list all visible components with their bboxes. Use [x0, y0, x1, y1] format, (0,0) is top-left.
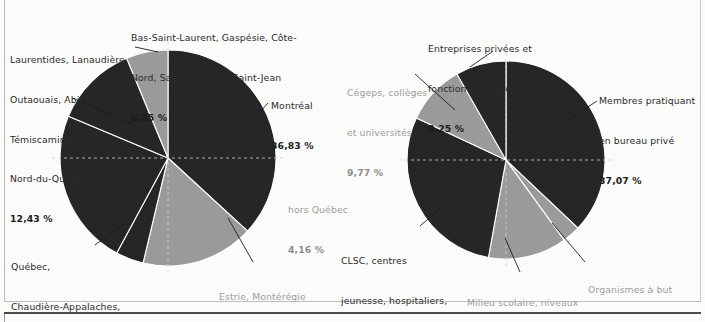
label-organismes: Organismes à but non lucratif 2,93 % — [588, 257, 672, 322]
label-membres-value: 37,07 % — [599, 174, 695, 187]
label-laurentides-value: 12,43 % — [10, 212, 128, 225]
label-clsc-line1: CLSC, centres — [341, 254, 460, 267]
label-milieu-scolaire: Milieu scolaire, niveaux primaire et sec… — [467, 270, 578, 322]
label-montreal-value: 36,83 % — [271, 139, 314, 152]
label-laurentides-line2: Outaouais, Abitibi- — [10, 93, 128, 106]
label-cegeps-line2: et universités — [347, 126, 427, 139]
label-membres-line1: Membres pratiquant — [599, 94, 695, 107]
label-clsc: CLSC, centres jeunesse, hospitaliers, de… — [341, 228, 460, 322]
label-quebec-line2: Chaudière-Appalaches, — [11, 300, 145, 313]
figure-panel: Laurentides, Lanaudière, Outaouais, Abit… — [0, 0, 705, 322]
label-bas-saint-laurent-line1: Bas-Saint-Laurent, Gaspésie, Côte- — [131, 31, 297, 44]
label-cegeps-value: 9,77 % — [347, 166, 427, 179]
label-cegeps: Cégeps, collèges et universités 9,77 % — [347, 60, 427, 205]
label-quebec: Québec, Chaudière-Appalaches, Mauricie, … — [11, 234, 145, 322]
label-entreprises-line2: fonction publique — [428, 82, 532, 95]
label-cegeps-line1: Cégeps, collèges — [347, 86, 427, 99]
label-clsc-line2: jeunesse, hospitaliers, — [341, 294, 460, 307]
label-laurentides-line4: Nord-du-Québec — [10, 172, 128, 185]
label-hors-quebec-value: 4,16 % — [288, 243, 348, 256]
label-laurentides: Laurentides, Lanaudière, Outaouais, Abit… — [10, 27, 128, 251]
label-milieu-scolaire-line1: Milieu scolaire, niveaux — [467, 296, 578, 309]
label-membres-line2: en bureau privé — [599, 134, 695, 147]
label-membres: Membres pratiquant en bureau privé 37,07… — [599, 68, 695, 213]
label-montreal: Montréal 36,83 % — [271, 73, 314, 179]
label-hors-quebec-line1: hors Québec — [288, 203, 348, 216]
label-laurentides-line3: Témiscamingue, — [10, 133, 128, 146]
label-organismes-line1: Organismes à but — [588, 283, 672, 296]
label-quebec-line1: Québec, — [11, 260, 145, 273]
label-estrie-line1: Estrie, Montérégie — [219, 290, 306, 303]
label-montreal-line1: Montréal — [271, 99, 314, 112]
label-entreprises-line1: Entreprises privées et — [428, 42, 532, 55]
label-laurentides-line1: Laurentides, Lanaudière, — [10, 53, 128, 66]
label-entreprises-value: 8,25 % — [428, 122, 532, 135]
label-estrie: Estrie, Montérégie 16,88 % — [219, 264, 306, 322]
label-entreprises: Entreprises privées et fonction publique… — [428, 16, 532, 161]
